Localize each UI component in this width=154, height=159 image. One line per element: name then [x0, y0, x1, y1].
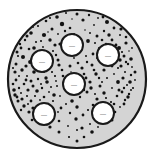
- speckle-dot: [116, 80, 120, 84]
- speckle-dot: [131, 47, 133, 49]
- speckle-dot: [57, 33, 59, 35]
- speckle-dot: [42, 33, 46, 37]
- speckle-dot: [111, 87, 113, 89]
- speckle-dot: [94, 42, 96, 44]
- speckle-dot: [30, 80, 33, 83]
- speckle-dot: [130, 89, 132, 91]
- speckle-dot: [124, 99, 126, 101]
- speckle-dot: [97, 126, 99, 128]
- speckle-dot: [43, 96, 46, 99]
- speckle-dot: [51, 71, 53, 73]
- speckle-dot: [25, 79, 28, 82]
- speckle-dot: [86, 61, 88, 63]
- speckle-dot: [59, 95, 61, 97]
- speckle-dot: [13, 70, 16, 73]
- speckle-dot: [69, 65, 72, 68]
- speckle-dot: [26, 88, 29, 91]
- speckle-dot: [118, 89, 121, 92]
- speckle-dot: [95, 97, 98, 100]
- speckle-dot: [22, 104, 25, 107]
- speckle-dot: [113, 103, 116, 106]
- marker-lower-left: —: [33, 103, 55, 125]
- speckle-dot: [45, 20, 48, 23]
- speckle-dot: [57, 63, 60, 66]
- speckle-dot: [64, 30, 66, 32]
- speckle-dot: [32, 85, 35, 88]
- speckle-dot: [113, 27, 116, 30]
- speckle-dot: [28, 48, 31, 51]
- speckle-dot: [12, 88, 16, 92]
- speckle-dot: [69, 112, 71, 114]
- speckle-dot: [37, 78, 39, 80]
- speckle-dot: [48, 91, 50, 93]
- speckle-dot: [124, 71, 126, 73]
- speckle-dot: [121, 76, 124, 79]
- speckle-dot: [40, 40, 42, 42]
- speckle-dot: [76, 13, 79, 16]
- marker-lower-right: —: [92, 102, 114, 124]
- speckle-dot: [55, 54, 57, 56]
- speckle-dot: [121, 51, 123, 53]
- speckle-dot: [12, 67, 14, 69]
- speckle-dot: [16, 96, 19, 99]
- speckle-dot: [88, 14, 90, 16]
- speckle-dot: [32, 46, 36, 50]
- speckle-dot: [101, 81, 103, 83]
- speckle-dot: [128, 93, 130, 95]
- speckle-dot: [96, 35, 99, 38]
- speckle-dot: [121, 91, 124, 94]
- speckle-dot: [89, 32, 91, 34]
- speckle-dot: [80, 66, 83, 69]
- speckle-dot: [26, 35, 29, 38]
- speckle-dot: [17, 55, 19, 57]
- speckle-dot: [15, 63, 18, 66]
- speckle-dot: [89, 86, 92, 89]
- speckle-dot: [23, 83, 26, 86]
- speckle-dot: [102, 68, 105, 71]
- speckle-dot: [124, 41, 127, 44]
- speckle-dot: [111, 39, 114, 42]
- speckle-dot: [54, 75, 56, 77]
- speckle-dot: [117, 67, 119, 69]
- speckle-dot: [129, 57, 133, 61]
- marker-dash-label: —: [39, 59, 45, 65]
- speckle-dot: [49, 17, 51, 19]
- speckle-dot: [110, 101, 112, 103]
- speckle-dot: [12, 83, 15, 86]
- speckle-dot: [98, 77, 100, 79]
- speckle-dot: [26, 95, 28, 97]
- speckle-dot: [105, 20, 109, 24]
- speckle-dot: [84, 29, 86, 31]
- speckle-dot: [85, 77, 88, 80]
- speckle-dot: [20, 92, 22, 94]
- speckle-dot: [51, 28, 54, 31]
- speckle-dot: [106, 77, 108, 79]
- speckle-dot: [123, 87, 125, 89]
- speckle-dot: [105, 97, 107, 99]
- speckle-dot: [57, 59, 60, 62]
- speckle-dot: [125, 36, 128, 39]
- speckle-dot: [134, 79, 136, 81]
- speckle-dot: [83, 136, 86, 139]
- speckle-dot: [76, 140, 79, 143]
- speckle-dot: [89, 123, 91, 125]
- speckle-dot: [116, 95, 119, 98]
- speckle-dot: [134, 71, 137, 74]
- speckle-dot: [60, 107, 63, 110]
- speckle-dot: [16, 51, 19, 54]
- speckle-dot: [107, 33, 110, 36]
- speckle-dot: [79, 96, 81, 98]
- speckle-dot: [76, 129, 78, 131]
- speckle-dot: [93, 24, 95, 26]
- speckle-dot: [65, 12, 67, 14]
- speckle-dot: [41, 87, 43, 89]
- speckle-dot: [50, 86, 52, 88]
- speckle-dot: [18, 75, 20, 77]
- speckle-dot: [99, 85, 102, 88]
- marker-dash-label: —: [100, 111, 106, 117]
- speckle-dot: [52, 50, 54, 52]
- speckle-dot: [119, 64, 122, 67]
- speckle-dot: [65, 103, 67, 105]
- speckle-dot: [88, 80, 91, 83]
- speckle-dot: [132, 87, 134, 89]
